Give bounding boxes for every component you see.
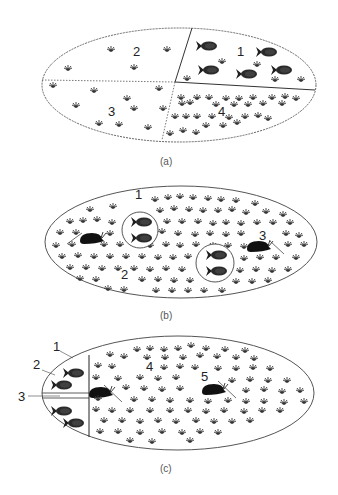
panel-caption: (c) — [160, 463, 172, 474]
region-label: 4 — [218, 104, 225, 119]
panel-b: 1 2 3 (b) — [45, 186, 317, 321]
plant-icon — [92, 342, 308, 444]
plant-icon — [49, 46, 305, 136]
panel-caption: (b) — [160, 310, 172, 321]
panel-c: 1 2 3 4 5 (c) — [18, 336, 314, 474]
region-label: 1 — [135, 187, 142, 202]
region-label: 3 — [108, 104, 115, 119]
region-label: 1 — [53, 339, 60, 354]
region-label: 3 — [18, 389, 25, 404]
region-label: 3 — [259, 228, 266, 243]
fish-enclosure-circle — [196, 244, 234, 282]
panel-caption: (a) — [160, 156, 172, 167]
region-label: 1 — [237, 44, 244, 59]
region-label: 2 — [133, 44, 140, 59]
divider-solid-2 — [175, 82, 315, 90]
pond-outline-a — [42, 28, 316, 142]
region-label: 2 — [121, 267, 128, 282]
region-label: 4 — [146, 359, 153, 374]
panel-a: 2 1 3 4 (a) — [42, 28, 316, 167]
figure-canvas: 2 1 3 4 (a) — [0, 0, 338, 495]
fish-enclosure-circle — [122, 212, 158, 248]
region-label: 2 — [33, 357, 40, 372]
region-label: 5 — [201, 369, 208, 384]
leader-line — [270, 241, 284, 254]
divider-dotted-1 — [42, 80, 175, 82]
divider-solid-1 — [175, 28, 192, 82]
leader-line — [60, 351, 73, 358]
